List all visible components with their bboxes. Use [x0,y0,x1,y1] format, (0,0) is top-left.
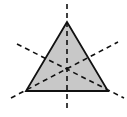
triangle-symmetry-diagram [0,0,127,117]
